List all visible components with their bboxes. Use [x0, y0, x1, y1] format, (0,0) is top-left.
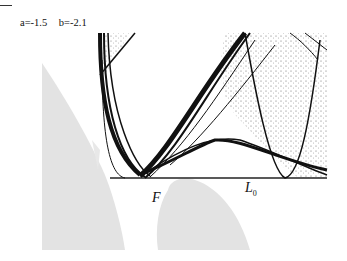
label-L-subscript: 0: [253, 189, 257, 198]
chaotic-attractor-plot: [0, 0, 347, 261]
label-F: F: [152, 190, 161, 206]
label-L0: L0: [245, 180, 257, 198]
basin-left: [42, 63, 125, 250]
basin-bottom: [157, 178, 250, 250]
label-L-text: L: [245, 180, 253, 195]
